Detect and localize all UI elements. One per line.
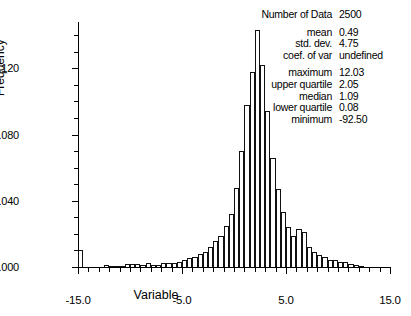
stats-value: 2500 bbox=[332, 9, 405, 21]
x-axis-tick bbox=[203, 267, 204, 272]
stats-row: upper quartile2.05 bbox=[236, 79, 405, 91]
y-axis-tick-label: .080 bbox=[0, 130, 19, 141]
y-axis-tick bbox=[72, 201, 79, 202]
y-axis-tick-label: .000 bbox=[0, 262, 19, 273]
y-axis-tick bbox=[74, 101, 79, 102]
x-axis-tick bbox=[109, 267, 110, 272]
y-axis-tick bbox=[72, 135, 79, 136]
x-axis-tick bbox=[328, 267, 329, 272]
y-axis-tick bbox=[74, 35, 79, 36]
stats-label: upper quartile bbox=[236, 79, 332, 91]
x-axis-tick bbox=[255, 267, 256, 272]
y-axis-tick bbox=[74, 217, 79, 218]
y-axis-tick bbox=[74, 184, 79, 185]
x-axis-tick bbox=[130, 267, 131, 272]
y-axis-tick bbox=[74, 151, 79, 152]
y-axis-tick bbox=[74, 118, 79, 119]
y-axis-tick-label: .120 bbox=[0, 63, 19, 74]
stats-label: minimum bbox=[236, 114, 332, 126]
x-axis-tick bbox=[161, 267, 162, 272]
stats-group-count: Number of Data2500 bbox=[236, 9, 405, 21]
y-axis-tick bbox=[74, 168, 79, 169]
y-axis-tick bbox=[74, 52, 79, 53]
y-axis-tick bbox=[72, 68, 79, 69]
stats-label: Number of Data bbox=[236, 9, 332, 21]
x-axis-tick bbox=[182, 267, 183, 274]
stats-value: 0.08 bbox=[332, 102, 405, 114]
x-axis-tick bbox=[296, 267, 297, 272]
x-axis-tick bbox=[120, 267, 121, 272]
stats-row: minimum-92.50 bbox=[236, 114, 405, 126]
x-axis-tick bbox=[244, 267, 245, 272]
x-axis-tick bbox=[151, 267, 152, 272]
x-axis-tick bbox=[348, 267, 349, 272]
x-axis-tick bbox=[276, 267, 277, 272]
y-axis-tick-label: .040 bbox=[0, 196, 19, 207]
stats-label: lower quartile bbox=[236, 102, 332, 114]
histogram-bar bbox=[78, 250, 83, 267]
stats-label: coef. of var bbox=[236, 50, 332, 62]
x-axis-tick bbox=[172, 267, 173, 272]
x-axis-tick bbox=[213, 267, 214, 272]
x-axis-tick bbox=[390, 267, 391, 274]
stats-row: lower quartile0.08 bbox=[236, 102, 405, 114]
x-axis-tick bbox=[317, 267, 318, 272]
x-axis-tick bbox=[224, 267, 225, 272]
y-axis-tick bbox=[74, 234, 79, 235]
stats-value: 2.05 bbox=[332, 79, 405, 91]
stats-row: Number of Data2500 bbox=[236, 9, 405, 21]
x-axis-tick bbox=[88, 267, 89, 272]
x-axis-tick bbox=[369, 267, 370, 272]
stats-value: undefined bbox=[332, 50, 405, 62]
x-axis-tick bbox=[338, 267, 339, 272]
x-axis-tick bbox=[234, 267, 235, 272]
y-axis-tick bbox=[74, 85, 79, 86]
stats-value: -92.50 bbox=[332, 114, 405, 126]
statistics-panel: Number of Data2500 mean0.49std. dev.4.75… bbox=[236, 9, 405, 125]
x-axis-tick-label: 15.0 bbox=[360, 294, 411, 306]
x-axis-tick bbox=[286, 267, 287, 274]
stats-row: coef. of varundefined bbox=[236, 50, 405, 62]
x-axis-tick bbox=[192, 267, 193, 272]
x-axis-tick bbox=[359, 267, 360, 272]
x-axis-tick bbox=[265, 267, 266, 272]
histogram-figure: -15.0-5.05.015.0 Frequency Variable Numb… bbox=[0, 0, 411, 316]
x-axis-tick bbox=[380, 267, 381, 272]
x-axis-tick bbox=[140, 267, 141, 272]
stats-group-moments: mean0.49std. dev.4.75coef. of varundefin… bbox=[236, 27, 405, 62]
stats-group-quantiles: maximum12.03upper quartile2.05median1.09… bbox=[236, 67, 405, 125]
x-axis-tick bbox=[307, 267, 308, 272]
x-axis-title: Variable bbox=[0, 289, 312, 302]
y-axis-tick bbox=[74, 250, 79, 251]
x-axis-tick bbox=[99, 267, 100, 272]
x-axis-tick bbox=[78, 267, 79, 274]
